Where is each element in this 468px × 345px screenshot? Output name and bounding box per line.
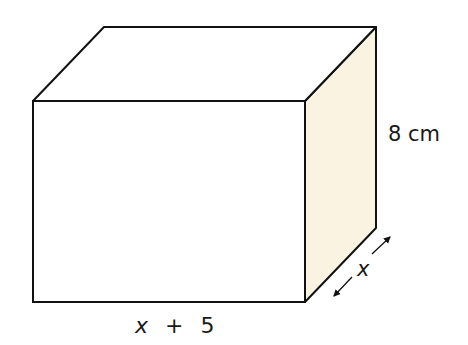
height-label: 8 cm <box>388 122 440 146</box>
front-face <box>33 101 305 302</box>
length-number: 5 <box>200 313 214 338</box>
length-label: x + 5 <box>134 313 214 338</box>
cuboid-diagram: 8 cm x + 5 x <box>0 0 468 345</box>
depth-label: x <box>356 257 370 281</box>
depth-arrow-down-icon <box>334 277 352 296</box>
length-operator: + <box>165 313 183 338</box>
depth-arrow-up-icon <box>372 237 390 254</box>
length-variable: x <box>134 313 149 338</box>
